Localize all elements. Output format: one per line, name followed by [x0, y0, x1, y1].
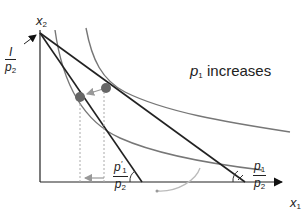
annotation-p1-increases: p1 increases [190, 63, 271, 80]
angle-arc-new [130, 171, 135, 182]
slope-orig-den-sub: 2 [261, 182, 265, 191]
intercept-den-sub: 2 [12, 66, 16, 75]
budget-line-original [40, 33, 245, 182]
intercept-numerator: I [8, 46, 13, 59]
slope-new-den-sub: 2 [121, 183, 125, 192]
pivot-arrow-tail [156, 190, 159, 193]
x-axis-sub: 1 [297, 202, 301, 211]
slope-new-num-sub: 1 [122, 166, 126, 175]
pivot-arrow [158, 168, 200, 191]
slope-new-num-var: p [114, 160, 121, 174]
annotation-text: increases [203, 62, 271, 79]
shift-arrow-points [87, 89, 103, 94]
slope-label-original: p1 p2 [253, 160, 266, 191]
intercept-pointer [24, 35, 36, 44]
indifference-curve-high [86, 28, 290, 132]
intercept-den-var: p [5, 60, 12, 74]
slope-label-new: p′1 p2 [113, 160, 128, 192]
intercept-label: I p2 [5, 46, 16, 75]
y-axis-label: x2 [36, 14, 47, 29]
optimum-point-original [101, 83, 111, 93]
slope-orig-den-var: p [254, 176, 261, 190]
optimum-point-new [75, 92, 85, 102]
slope-orig-num-var: p [254, 159, 261, 173]
slope-orig-num-sub: 1 [261, 165, 265, 174]
x-axis-label: x1 [290, 196, 301, 211]
y-axis-sub: 2 [43, 20, 47, 29]
